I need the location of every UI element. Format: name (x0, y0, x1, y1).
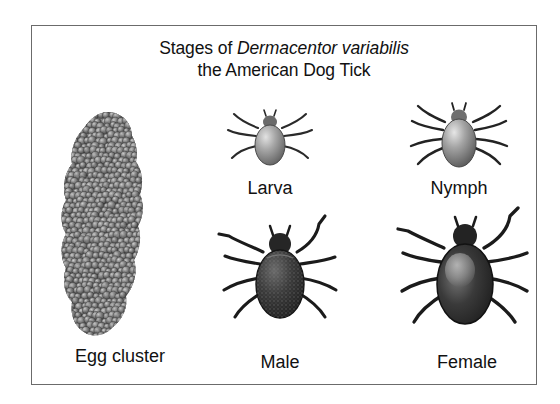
title-prefix: Stages of (159, 38, 237, 58)
female-scutum (445, 253, 475, 287)
nymph-body (442, 119, 476, 167)
figure-title: Stages of Dermacentor variabilis the Ame… (31, 38, 537, 81)
stage-label-female: Female (386, 352, 548, 373)
stage-label-larva: Larva (212, 178, 328, 199)
stage-egg-cluster: Egg cluster (52, 108, 188, 380)
tick-life-stages-figure: Stages of Dermacentor variabilis the Ame… (0, 0, 560, 404)
stage-label-egg-cluster: Egg cluster (52, 346, 188, 367)
stage-male: Male (205, 212, 355, 380)
tick-larva-illustration (212, 104, 328, 178)
title-line-2: the American Dog Tick (31, 60, 537, 82)
egg-cluster-mass (52, 108, 188, 344)
tick-male-adult-illustration (205, 212, 355, 352)
title-species-name: Dermacentor variabilis (237, 38, 409, 58)
stage-larva: Larva (212, 104, 328, 206)
larva-body (255, 125, 285, 165)
male-scutum-ornamentation (256, 250, 304, 318)
stage-female: Female (386, 206, 548, 380)
tick-nymph-illustration (396, 100, 522, 180)
stage-label-nymph: Nymph (396, 178, 522, 199)
tick-female-adult-illustration (386, 206, 548, 352)
stage-label-male: Male (205, 352, 355, 373)
stage-nymph: Nymph (396, 100, 522, 206)
title-line-1: Stages of Dermacentor variabilis (31, 38, 537, 60)
egg-cluster-illustration (52, 108, 188, 344)
